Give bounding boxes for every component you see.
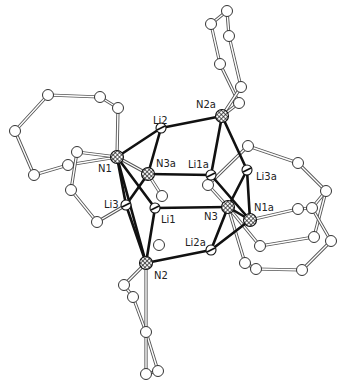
atom-n2a: [216, 110, 229, 123]
atom-n2: [140, 257, 153, 270]
carbon-atom: [66, 185, 77, 196]
ring-bond: [211, 24, 220, 64]
atom-li1: [150, 203, 160, 213]
atom-n1a: [244, 214, 257, 227]
carbon-atom: [63, 160, 74, 171]
atom-label: N1a: [254, 202, 274, 213]
carbon-atom: [43, 90, 54, 101]
core-bond: [155, 207, 228, 208]
carbon-atom: [236, 82, 247, 93]
carbon-atom: [255, 241, 266, 252]
carbon-atom: [243, 141, 254, 152]
carbon-atom: [141, 327, 152, 338]
ring-bond: [71, 190, 97, 222]
ring-bond: [117, 108, 118, 157]
carbon-atom: [29, 170, 40, 181]
atom-li3: [121, 200, 131, 210]
ring-bond: [248, 146, 298, 163]
carbon-atom: [153, 366, 164, 377]
atom-label: Li1a: [188, 159, 209, 170]
carbon-atom: [215, 59, 226, 70]
core-bond: [161, 116, 222, 128]
atom-n3: [222, 201, 235, 214]
ring-bond: [260, 237, 314, 246]
carbon-atom: [157, 191, 168, 202]
atom-label: N1: [98, 163, 112, 174]
carbon-atom: [234, 98, 245, 109]
atom-label: N2a: [196, 99, 216, 110]
ring-bonds-layer: [15, 11, 331, 374]
carbon-atoms-layer: [10, 6, 337, 380]
ring-bond: [229, 36, 241, 87]
atom-n3a: [142, 168, 155, 181]
carbon-atom: [222, 6, 233, 17]
atom-label: N3a: [156, 158, 176, 169]
atom-li2a: [206, 245, 216, 255]
ring-bond: [146, 332, 158, 371]
carbon-atom: [206, 19, 217, 30]
carbon-atom: [224, 31, 235, 42]
carbon-atom: [119, 280, 130, 291]
carbon-atom: [72, 147, 83, 158]
atom-label: Li3a: [256, 171, 277, 182]
carbon-atom: [297, 265, 308, 276]
atom-label: Li2: [153, 115, 168, 126]
core-bond: [148, 174, 211, 175]
atom-li1a: [206, 170, 216, 180]
carbon-atom: [95, 92, 106, 103]
carbon-atom: [309, 232, 320, 243]
core-bond: [146, 208, 155, 263]
carbon-atom: [92, 217, 103, 228]
atom-label: Li3: [104, 199, 119, 210]
carbon-atom: [141, 369, 152, 380]
carbon-atom: [10, 126, 21, 137]
carbon-atom: [293, 204, 304, 215]
carbon-atom: [128, 292, 139, 303]
ring-bond: [256, 269, 302, 270]
atom-label: Li2a: [185, 237, 206, 248]
carbon-atom: [240, 258, 251, 269]
core-bond: [211, 116, 222, 175]
molecular-structure-diagram: N1N2N3N1aN2aN3aLi1Li2Li3Li1aLi2aLi3a: [0, 0, 344, 383]
core-bond: [146, 250, 211, 263]
atom-li3a: [242, 165, 252, 175]
carbon-atom: [321, 186, 332, 197]
ring-bond: [48, 95, 100, 97]
carbon-atom: [113, 103, 124, 114]
atom-label: N3: [204, 211, 218, 222]
atom-label: N2: [154, 270, 168, 281]
core-bond: [247, 170, 250, 220]
carbon-atom: [251, 264, 262, 275]
carbon-atom: [293, 158, 304, 169]
atom-n1: [111, 151, 124, 164]
core-bond: [126, 205, 146, 263]
ring-bond: [302, 241, 331, 270]
carbon-atom: [154, 240, 165, 251]
atom-label: Li1: [161, 214, 176, 225]
core-bonds-layer: [117, 116, 250, 263]
carbon-atom: [326, 236, 337, 247]
carbon-atom: [307, 203, 318, 214]
ring-bond: [15, 95, 48, 131]
carbon-atom: [203, 180, 214, 191]
ring-bond: [15, 131, 34, 175]
core-atoms-layer: [111, 110, 257, 270]
